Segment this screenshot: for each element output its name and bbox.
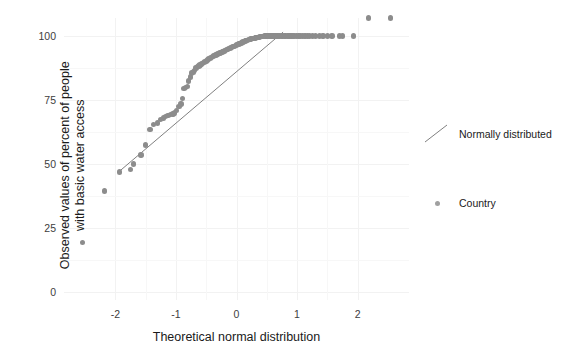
normal-reference-line	[64, 18, 409, 300]
legend-line-key-icon	[420, 121, 456, 147]
data-point	[131, 161, 136, 166]
x-tick-label: 1	[294, 308, 300, 320]
y-tick-label: 0	[20, 286, 56, 298]
data-point	[329, 33, 334, 38]
plot-panel	[64, 18, 409, 300]
y-tick-label: 100	[20, 30, 56, 42]
data-point	[366, 15, 371, 20]
x-tick-label: -1	[171, 308, 180, 320]
x-tick-label: -2	[111, 308, 120, 320]
legend-label-normally-distributed: Normally distributed	[459, 128, 552, 140]
legend-label-country: Country	[459, 197, 496, 209]
data-point	[102, 188, 107, 193]
qq-plot-figure: -2-1012 0255075100 Theoretical normal di…	[0, 0, 562, 360]
data-point	[143, 142, 148, 147]
x-axis-title: Theoretical normal distribution	[64, 330, 409, 344]
legend-point-key-icon	[420, 190, 456, 216]
data-point	[138, 152, 143, 157]
data-point	[351, 33, 356, 38]
y-axis-title-line-1: Observed values of percent of people	[58, 23, 73, 308]
y-axis-title-line-2: with basic water access	[74, 23, 89, 308]
legend-item-country[interactable]: Country	[420, 189, 496, 217]
data-point	[340, 33, 345, 38]
legend-item-normally-distributed[interactable]: Normally distributed	[420, 120, 552, 148]
x-tick-label: 2	[355, 308, 361, 320]
data-point	[147, 127, 152, 132]
y-tick-label: 25	[20, 222, 56, 234]
y-tick-label: 75	[20, 94, 56, 106]
y-axis-title: Observed values of percent of people wit…	[58, 23, 89, 308]
y-tick-label: 50	[20, 158, 56, 170]
data-point	[117, 169, 122, 174]
data-point	[388, 15, 393, 20]
data-point	[178, 101, 183, 106]
x-tick-label: 0	[234, 308, 240, 320]
